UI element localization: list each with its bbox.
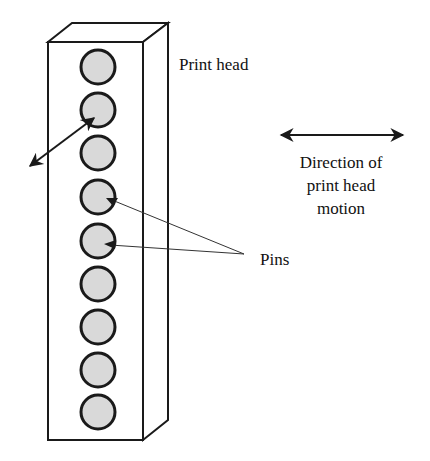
pin: [81, 310, 115, 344]
pin-column: [81, 50, 115, 429]
direction-label-line3: motion: [317, 199, 366, 218]
print-head-diagram: Print head Direction of print head motio…: [0, 0, 430, 461]
pins-label: Pins: [260, 250, 289, 269]
direction-label-line1: Direction of: [300, 153, 383, 172]
pin: [81, 93, 115, 127]
pin: [81, 180, 115, 214]
pin: [81, 353, 115, 387]
print-head-label: Print head: [179, 55, 249, 74]
direction-label-line2: print head: [307, 176, 376, 195]
pin: [81, 136, 115, 170]
pin: [81, 395, 115, 429]
pin: [81, 267, 115, 301]
pin: [81, 50, 115, 84]
pin: [81, 224, 115, 258]
print-head-side-face: [143, 23, 168, 440]
